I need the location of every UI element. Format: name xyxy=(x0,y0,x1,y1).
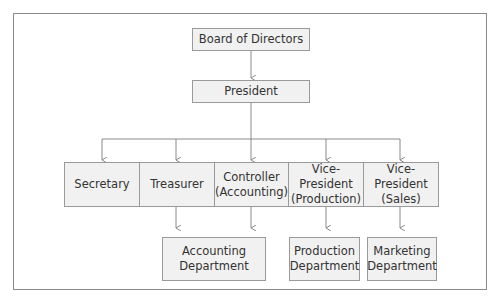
treasurer-box: Treasurer xyxy=(139,162,215,207)
production-department-box: Production Department xyxy=(289,237,360,281)
vp-production-label: Vice-President (Production) xyxy=(289,162,363,207)
accounting-department-label: Accounting Department xyxy=(179,244,249,274)
board-of-directors-label: Board of Directors xyxy=(199,32,303,47)
marketing-department-label: Marketing Department xyxy=(367,244,437,274)
controller-box: Controller (Accounting) xyxy=(214,162,289,207)
treasurer-label: Treasurer xyxy=(150,177,204,192)
vp-sales-box: Vice-President (Sales) xyxy=(363,162,439,207)
vp-sales-label: Vice-President (Sales) xyxy=(364,162,438,207)
board-of-directors-box: Board of Directors xyxy=(192,28,310,51)
president-label: President xyxy=(224,84,278,99)
vp-production-box: Vice-President (Production) xyxy=(288,162,364,207)
controller-label: Controller (Accounting) xyxy=(215,170,288,200)
secretary-label: Secretary xyxy=(74,177,129,192)
production-department-label: Production Department xyxy=(290,244,360,274)
marketing-department-box: Marketing Department xyxy=(367,237,437,281)
president-box: President xyxy=(192,80,310,103)
accounting-department-box: Accounting Department xyxy=(162,237,266,281)
secretary-box: Secretary xyxy=(64,162,140,207)
